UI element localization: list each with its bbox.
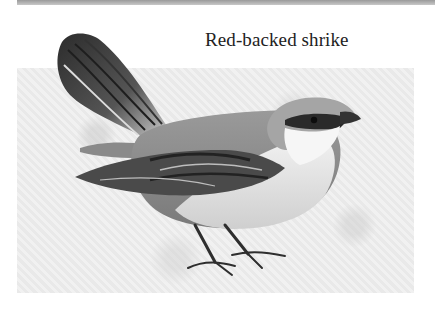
bird-illustration	[0, 0, 435, 315]
bird-legs	[188, 225, 285, 275]
